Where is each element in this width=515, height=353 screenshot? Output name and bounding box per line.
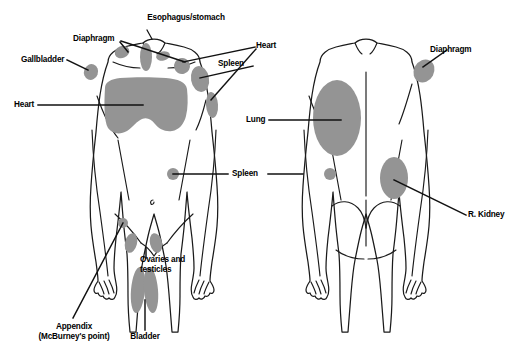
anterior-figure — [38, 30, 323, 332]
posterior-figure — [269, 39, 466, 332]
zone-gallbladder — [82, 62, 101, 82]
zone-lung — [313, 80, 361, 156]
label-appendix-line1: Appendix — [18, 322, 130, 332]
leader-esophagus-stomach — [147, 30, 152, 39]
label-ovaries-testicles-line2: testicles — [140, 265, 171, 275]
label-r-kidney: R. Kidney — [468, 210, 504, 220]
label-heart-anterior: Heart — [14, 100, 34, 110]
zone-r-kidney — [380, 157, 408, 199]
referred-pain-diagram: Esophagus/stomach Diaphragm Gallbladder … — [0, 0, 515, 353]
zone-spleen-back-dot — [324, 168, 336, 180]
label-heart-shoulder: Heart — [256, 41, 276, 51]
label-diaphragm-posterior: Diaphragm — [430, 45, 471, 55]
label-spleen-upper: Spleen — [218, 59, 244, 69]
leader-gallbladder — [67, 60, 88, 70]
label-diaphragm-anterior: Diaphragm — [73, 34, 114, 44]
label-lung: Lung — [246, 115, 265, 125]
label-ovaries-testicles-line1: Ovaries and — [140, 255, 185, 265]
label-spleen-mid: Spleen — [232, 169, 258, 179]
label-appendix-line2: (McBurney's point) — [18, 332, 130, 342]
label-gallbladder: Gallbladder — [21, 55, 64, 65]
label-esophagus-stomach: Esophagus/stomach — [131, 13, 241, 23]
